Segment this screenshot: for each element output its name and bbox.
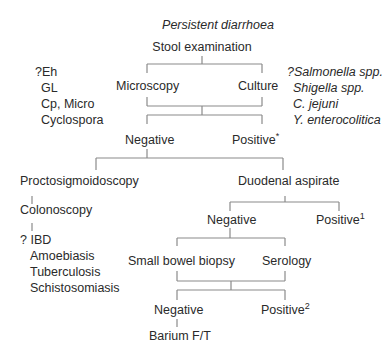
- positive-label: Positive: [261, 303, 305, 317]
- outcome-schistosomiasis: Schistosomiasis: [20, 280, 120, 296]
- node-culture: Culture: [238, 79, 278, 94]
- culture-notes: ?Salmonella spp. Shigella spp. C. jejuni…: [287, 64, 383, 128]
- note-eh: ?Eh: [35, 64, 104, 80]
- outcome-amoebiasis: Amoebiasis: [20, 248, 120, 264]
- note-gl: GL: [35, 80, 104, 96]
- node-duodenal-aspirate: Duodenal aspirate: [238, 174, 339, 189]
- note-cp-micro: Cp, Micro: [35, 96, 104, 112]
- note-y-enterocolitica: Y. enterocolitica: [287, 112, 383, 128]
- node-small-bowel-biopsy: Small bowel biopsy: [128, 254, 235, 269]
- node-microscopy: Microscopy: [116, 79, 179, 94]
- positive-label: Positive: [232, 133, 276, 147]
- positive-footnote-mark: 2: [305, 301, 310, 311]
- microscopy-notes: ?Eh GL Cp, Micro Cyclospora: [35, 64, 104, 128]
- positive-label: Positive: [316, 213, 360, 227]
- node-positive-3: Positive2: [261, 303, 310, 318]
- node-negative-2: Negative: [207, 213, 256, 228]
- node-stool-examination: Stool examination: [152, 40, 251, 55]
- node-colonoscopy: Colonoscopy: [20, 203, 92, 218]
- node-positive-1: Positive*: [232, 133, 279, 148]
- note-salmonella: ?Salmonella spp.: [287, 64, 383, 80]
- node-negative-1: Negative: [125, 133, 174, 148]
- node-barium-ft: Barium F/T: [149, 329, 211, 344]
- node-serology: Serology: [262, 254, 311, 269]
- node-positive-2: Positive1: [316, 213, 365, 228]
- positive-footnote-mark: 1: [360, 211, 365, 221]
- note-c-jejuni: C. jejuni: [287, 96, 383, 112]
- left-outcomes: ? IBD Amoebiasis Tuberculosis Schistosom…: [20, 232, 120, 296]
- node-proctosigmoidoscopy: Proctosigmoidoscopy: [20, 174, 139, 189]
- positive-footnote-mark: *: [276, 131, 280, 141]
- outcome-tuberculosis: Tuberculosis: [20, 264, 120, 280]
- diagram-title: Persistent diarrhoea: [162, 18, 274, 33]
- node-negative-3: Negative: [154, 303, 203, 318]
- outcome-ibd: ? IBD: [20, 232, 120, 248]
- note-cyclospora: Cyclospora: [35, 112, 104, 128]
- note-shigella: Shigella spp.: [287, 80, 383, 96]
